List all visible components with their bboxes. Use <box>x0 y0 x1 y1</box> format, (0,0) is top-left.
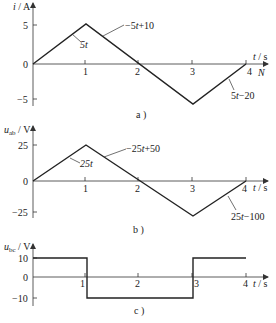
origin-label: 0 <box>23 176 28 187</box>
x-tick-4: 4 <box>247 66 252 77</box>
x-tick-2: 2 <box>135 183 140 194</box>
y-tick-neg10: −10 <box>12 293 28 304</box>
x-axis-label: t / s <box>253 278 268 289</box>
y-axis-label: i / A <box>13 1 31 12</box>
waveform-diagram: i / A 5 0 −5 1 2 3 4 t / s N 5t −5t+10 5… <box>0 0 276 323</box>
y-axis-label: uab / V <box>4 124 31 137</box>
panel-a-current: i / A 5 0 −5 1 2 3 4 t / s N 5t −5t+10 5… <box>13 1 268 121</box>
caption-a: a ) <box>136 109 146 121</box>
x-axis-label: t / s <box>253 51 268 62</box>
y-tick-10: 10 <box>18 253 28 264</box>
origin-label: 0 <box>23 59 28 70</box>
x-tick-1: 1 <box>83 66 88 77</box>
x-tick-4: 4 <box>242 183 247 194</box>
segment-label-5t: 5t <box>80 39 88 50</box>
x-tick-3: 3 <box>194 278 199 289</box>
segment-label-neg25t-plus-50: −25t+50 <box>126 143 160 154</box>
x-tick-2: 2 <box>135 66 140 77</box>
x-tick-4: 4 <box>243 278 248 289</box>
y-tick-25: 25 <box>18 140 28 151</box>
y-tick-neg5: −5 <box>17 94 28 105</box>
panel-c-voltage-bc: ubc / V 10 0 −10 1 2 3 4 t / s c ) <box>4 241 268 317</box>
y-tick-neg25: −25 <box>12 207 28 218</box>
x-tick-2: 2 <box>135 278 140 289</box>
caption-b: b ) <box>133 224 144 236</box>
x-tick-1: 1 <box>80 278 85 289</box>
segment-label-5t-minus-20: 5t−20 <box>231 90 254 101</box>
origin-label: 0 <box>23 272 28 283</box>
segment-label-25t: 25t <box>80 158 93 169</box>
x-tick-3: 3 <box>190 183 195 194</box>
segment-label-25t-minus-100: 25t−100 <box>231 211 264 222</box>
n-label: N <box>257 67 266 78</box>
x-tick-1: 1 <box>83 183 88 194</box>
caption-c: c ) <box>134 305 144 317</box>
x-tick-3: 3 <box>190 66 195 77</box>
segment-label-neg5t-plus-10: −5t+10 <box>125 20 154 31</box>
x-axis-label: t / s <box>253 182 268 193</box>
y-tick-5: 5 <box>23 20 28 31</box>
panel-b-voltage-ab: uab / V 25 0 −25 1 2 3 4 t / s 25t −25t+… <box>4 124 268 236</box>
voltage-ab-waveform <box>33 145 246 216</box>
